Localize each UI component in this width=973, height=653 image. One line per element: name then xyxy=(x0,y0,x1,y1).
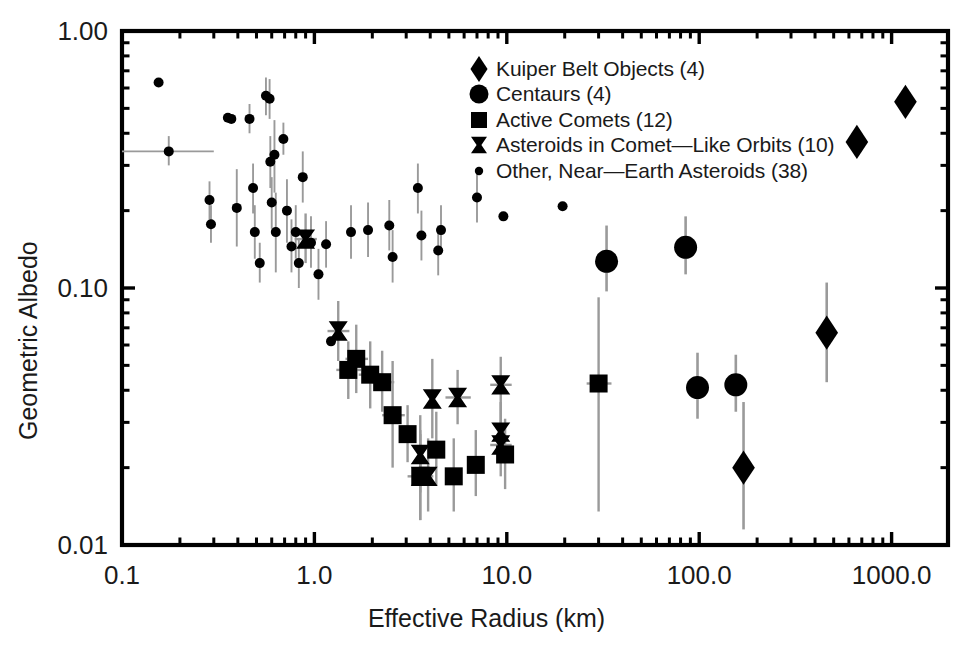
x-tick-label: 1.0 xyxy=(296,560,332,590)
data-marker xyxy=(399,425,417,443)
data-marker xyxy=(205,195,215,205)
y-tick-label: 0.01 xyxy=(57,530,108,560)
y-tick-label: 0.10 xyxy=(57,273,108,303)
data-marker xyxy=(282,206,292,216)
data-marker xyxy=(269,150,279,160)
series-2-markers xyxy=(339,350,607,485)
x-tick-label: 0.1 xyxy=(104,560,140,590)
data-marker xyxy=(686,376,709,399)
data-marker xyxy=(732,451,755,485)
data-marker xyxy=(595,250,618,273)
data-marker xyxy=(373,373,391,391)
data-marker xyxy=(271,227,281,237)
data-marker xyxy=(498,211,508,221)
data-marker xyxy=(846,125,869,159)
y-axis-title: Geometric Albedo xyxy=(14,241,43,440)
series-3-markers xyxy=(296,229,510,486)
data-marker xyxy=(306,238,316,248)
legend-item: Asteroids in Comet—Like Orbits (10) xyxy=(462,133,834,159)
data-marker xyxy=(278,134,288,144)
data-marker xyxy=(423,389,442,408)
data-marker xyxy=(250,227,260,237)
x-axis-title: Effective Radius (km) xyxy=(0,604,973,633)
figure-scatter-albedo-vs-radius: 0.11.010.0100.01000.01.000.100.01 Effect… xyxy=(0,0,973,653)
data-marker xyxy=(313,269,323,279)
data-marker xyxy=(255,258,265,268)
data-marker xyxy=(245,114,255,124)
data-marker xyxy=(427,441,445,459)
legend-label: Kuiper Belt Objects (4) xyxy=(496,57,705,81)
data-marker xyxy=(206,219,216,229)
data-marker xyxy=(724,373,747,396)
data-marker xyxy=(436,225,446,235)
data-marker xyxy=(265,94,275,104)
data-marker xyxy=(326,336,336,346)
legend-item: Other, Near—Earth Asteroids (38) xyxy=(462,158,834,184)
data-marker xyxy=(384,406,402,424)
data-marker xyxy=(590,375,608,393)
data-marker xyxy=(154,78,164,88)
data-marker xyxy=(467,456,485,474)
y-tick-label: 1.00 xyxy=(57,16,108,46)
x-tick-label: 1000.0 xyxy=(852,560,932,590)
legend-item: Active Comets (12) xyxy=(462,107,834,133)
data-marker xyxy=(298,172,308,182)
legend-marker-dot-icon xyxy=(462,156,496,186)
data-marker xyxy=(346,227,356,237)
data-marker xyxy=(411,445,430,464)
x-tick-label: 100.0 xyxy=(667,560,732,590)
data-marker xyxy=(416,231,426,241)
data-marker xyxy=(445,467,463,485)
data-marker xyxy=(321,239,331,249)
data-marker xyxy=(674,236,697,259)
legend-label: Other, Near—Earth Asteroids (38) xyxy=(496,159,808,183)
data-marker xyxy=(815,316,838,350)
data-marker xyxy=(232,203,242,213)
data-marker xyxy=(433,245,443,255)
data-marker xyxy=(291,227,301,237)
legend-item: Centaurs (4) xyxy=(462,82,834,108)
data-marker xyxy=(894,85,917,119)
data-marker xyxy=(388,252,398,262)
legend-label: Asteroids in Comet—Like Orbits (10) xyxy=(496,133,834,157)
data-marker xyxy=(226,114,236,124)
data-marker xyxy=(363,225,373,235)
chart-legend: Kuiper Belt Objects (4)Centaurs (4)Activ… xyxy=(462,56,834,184)
legend-item: Kuiper Belt Objects (4) xyxy=(462,56,834,82)
data-marker xyxy=(267,198,277,208)
data-marker xyxy=(413,183,423,193)
data-marker xyxy=(294,258,304,268)
data-marker xyxy=(248,183,258,193)
data-marker xyxy=(472,192,482,202)
data-marker xyxy=(164,146,174,156)
data-marker xyxy=(558,201,568,211)
data-marker xyxy=(339,361,357,379)
legend-label: Active Comets (12) xyxy=(496,108,673,132)
series-1-markers xyxy=(595,236,747,399)
data-marker xyxy=(286,242,296,252)
data-marker xyxy=(384,221,394,231)
x-tick-label: 10.0 xyxy=(481,560,532,590)
legend-label: Centaurs (4) xyxy=(496,82,612,106)
